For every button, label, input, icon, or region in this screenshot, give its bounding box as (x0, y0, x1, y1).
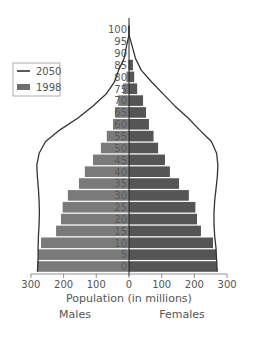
x-tick-label: 300 (21, 279, 40, 290)
bar-female-60 (129, 119, 149, 130)
bar-female-15 (129, 226, 201, 237)
chart-svg: 0510152025303540455055606570758085909510… (0, 0, 254, 340)
age-label-45: 45 (114, 155, 127, 166)
age-label-50: 50 (114, 143, 127, 154)
x-axis-title: Population (in millions) (66, 292, 192, 305)
age-label-40: 40 (114, 167, 127, 178)
legend-1998-label: 1998 (36, 82, 61, 93)
age-label-100: 100 (108, 24, 127, 35)
x-tick-label: 300 (218, 279, 237, 290)
bar-female-75 (129, 83, 137, 94)
bar-female-0 (129, 261, 217, 272)
age-label-70: 70 (114, 95, 127, 106)
bars-1998 (37, 60, 217, 272)
bar-female-25 (129, 202, 195, 213)
bar-female-70 (129, 95, 143, 106)
x-tick-label: 200 (54, 279, 73, 290)
bar-female-85 (129, 60, 133, 71)
legend: 2050 1998 (13, 63, 61, 96)
x-tick-label: 100 (87, 279, 106, 290)
bar-female-80 (129, 72, 134, 83)
bar-female-45 (129, 155, 165, 166)
age-label-0: 0 (121, 261, 127, 272)
bar-female-50 (129, 143, 158, 154)
x-axis: 3002001000100200300 (21, 274, 236, 290)
bar-female-30 (129, 190, 189, 201)
legend-2050-label: 2050 (36, 66, 61, 77)
bar-female-65 (129, 107, 146, 118)
age-label-25: 25 (114, 202, 127, 213)
legend-1998-swatch-icon (17, 84, 30, 90)
age-label-10: 10 (114, 238, 127, 249)
bar-male-0 (37, 261, 129, 272)
x-tick-label: 200 (185, 279, 204, 290)
age-label-95: 95 (114, 36, 127, 47)
population-pyramid-chart: 0510152025303540455055606570758085909510… (0, 0, 254, 340)
x-tick-label: 100 (152, 279, 171, 290)
age-label-60: 60 (114, 119, 127, 130)
females-label: Females (159, 308, 205, 321)
age-label-15: 15 (114, 226, 127, 237)
bar-female-5 (129, 249, 216, 260)
bar-female-55 (129, 131, 154, 142)
age-label-65: 65 (114, 107, 127, 118)
age-label-75: 75 (114, 84, 127, 95)
bar-male-5 (38, 249, 129, 260)
bar-female-35 (129, 178, 179, 189)
males-label: Males (59, 308, 91, 321)
bar-female-10 (129, 238, 213, 249)
age-label-35: 35 (114, 178, 127, 189)
age-label-30: 30 (114, 190, 127, 201)
bar-female-40 (129, 166, 170, 177)
bar-female-20 (129, 214, 197, 225)
age-label-5: 5 (121, 249, 127, 260)
age-label-20: 20 (114, 214, 127, 225)
age-label-55: 55 (114, 131, 127, 142)
x-tick-label: 0 (126, 279, 132, 290)
